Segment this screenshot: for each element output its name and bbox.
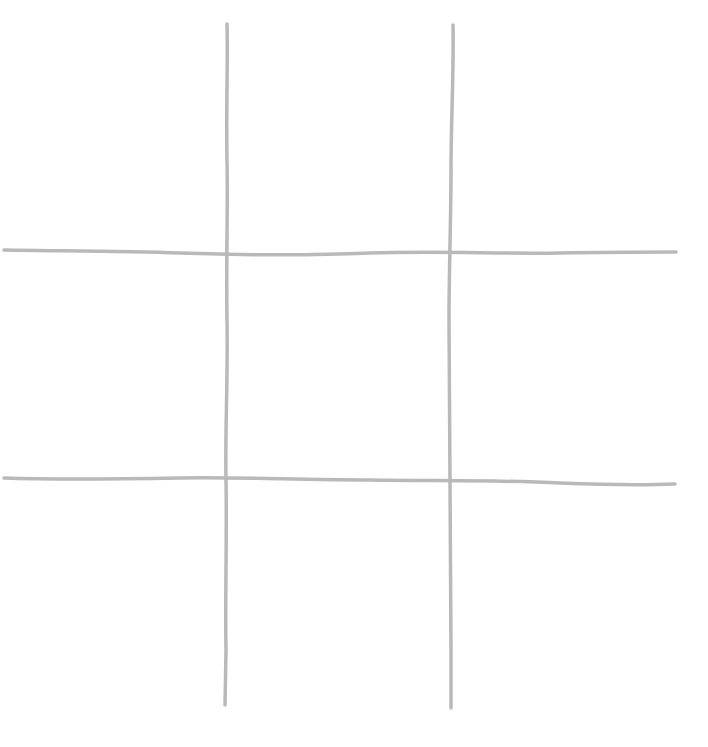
cell-0-0[interactable] xyxy=(0,0,226,251)
cell-1-0[interactable] xyxy=(0,255,226,477)
cell-mark xyxy=(0,482,226,747)
cell-2-2[interactable] xyxy=(454,482,708,747)
cell-0-1[interactable] xyxy=(229,0,449,251)
cell-mark xyxy=(229,482,449,747)
cell-mark xyxy=(0,255,226,477)
cell-mark xyxy=(454,482,708,747)
cell-1-1[interactable] xyxy=(229,255,449,477)
cell-0-2[interactable] xyxy=(454,0,708,251)
cell-mark xyxy=(454,0,708,251)
cell-2-0[interactable] xyxy=(0,482,226,747)
cell-mark xyxy=(229,255,449,477)
cell-mark xyxy=(0,0,226,251)
cell-mark xyxy=(454,255,708,477)
cell-1-2[interactable] xyxy=(454,255,708,477)
cell-mark xyxy=(229,0,449,251)
grid-line-vertical-right xyxy=(449,25,453,708)
cell-2-1[interactable] xyxy=(229,482,449,747)
